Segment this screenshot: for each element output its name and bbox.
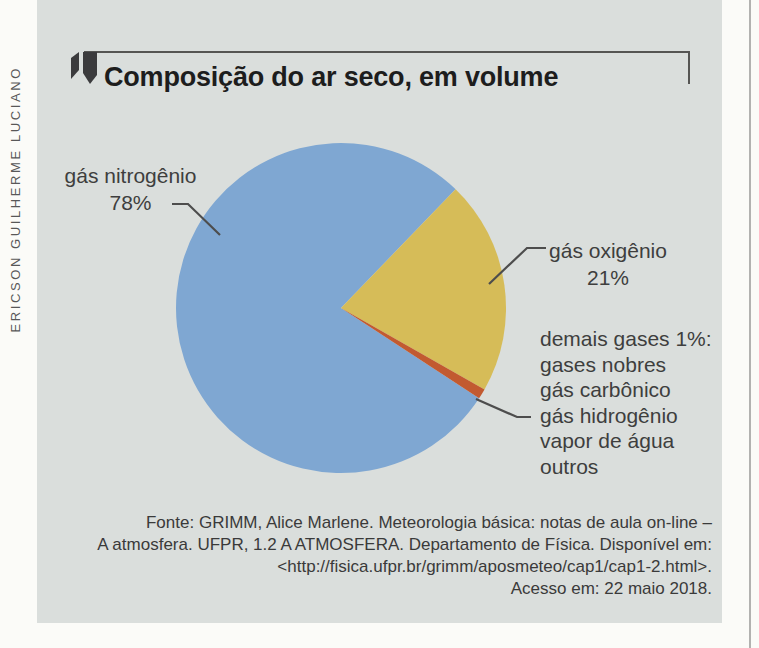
source-citation: Fonte: GRIMM, Alice Marlene. Meteorologi… bbox=[70, 512, 712, 600]
page-column-rule bbox=[749, 0, 751, 648]
label-oxygen: gás oxigênio 21% bbox=[546, 237, 670, 291]
source-line: Fonte: GRIMM, Alice Marlene. Meteorologi… bbox=[70, 512, 712, 534]
label-oxygen-pct: 21% bbox=[546, 264, 670, 291]
label-others-line: gás carbônico bbox=[540, 377, 730, 403]
title-rule-corner-tick bbox=[688, 51, 690, 84]
chevron-marker-icon bbox=[70, 52, 98, 88]
source-line: A atmosfera. UFPR, 1.2 A ATMOSFERA. Depa… bbox=[70, 534, 712, 556]
label-others-line: gás hidrogênio bbox=[540, 403, 730, 429]
label-others-line: outros bbox=[540, 454, 730, 480]
figure-title: Composição do ar seco, em volume bbox=[104, 62, 558, 93]
label-nitrogen-name: gás nitrogênio bbox=[58, 162, 203, 189]
label-nitrogen: gás nitrogênio 78% bbox=[58, 162, 203, 216]
source-line: <http://fisica.ufpr.br/grimm/aposmeteo/c… bbox=[70, 556, 712, 578]
label-nitrogen-pct: 78% bbox=[58, 189, 203, 216]
illustrator-credit: ERICSON GUILHERME LUCIANO bbox=[8, 66, 23, 333]
label-others-line: demais gases 1%: bbox=[540, 326, 730, 352]
label-other-gases: demais gases 1%: gases nobres gás carbôn… bbox=[540, 326, 730, 479]
source-line: Acesso em: 22 maio 2018. bbox=[70, 578, 712, 600]
label-oxygen-name: gás oxigênio bbox=[546, 237, 670, 264]
title-rule-line bbox=[84, 51, 690, 53]
label-others-line: vapor de água bbox=[540, 428, 730, 454]
label-others-line: gases nobres bbox=[540, 352, 730, 378]
